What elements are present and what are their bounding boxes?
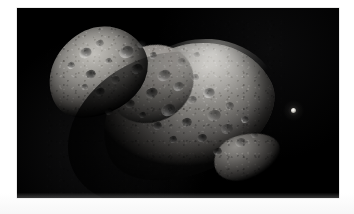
asteroid-ida <box>45 18 285 196</box>
space-photograph <box>17 8 339 198</box>
page-root: Asteroid 243 Ida with its small moon Dac… <box>0 0 354 214</box>
asteroid-moon-dactyl <box>291 108 296 113</box>
